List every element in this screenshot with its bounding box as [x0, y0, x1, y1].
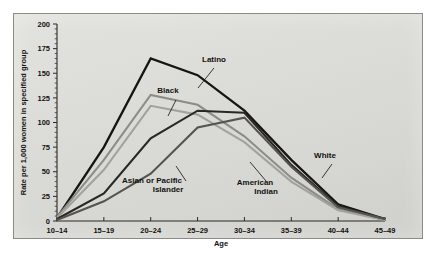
annotation-leader-line[interactable] — [322, 164, 332, 178]
y-tick-label[interactable]: 100 — [37, 118, 50, 127]
line-chart: 025507510012515017520010–1415–1920–2425–… — [0, 0, 434, 263]
series-annotation-american[interactable]: American — [237, 178, 274, 187]
annotation-leader-line[interactable] — [168, 100, 176, 116]
data-lines-layer — [57, 59, 385, 221]
y-tick-label[interactable]: 75 — [42, 143, 50, 152]
y-axis-title[interactable]: Rate per 1,000 women in specified group — [19, 49, 28, 195]
y-tick-label[interactable]: 200 — [37, 20, 50, 29]
data-line-latino[interactable] — [57, 59, 385, 220]
data-line-asian-or-pacific-islander[interactable] — [57, 118, 385, 220]
x-tick-label[interactable]: 25–29 — [187, 226, 208, 235]
y-tick-label[interactable]: 0 — [46, 217, 50, 226]
x-tick-label[interactable]: 45–49 — [375, 226, 396, 235]
chart-figure-root: 025507510012515017520010–1415–1920–2425–… — [0, 0, 434, 263]
series-annotation-indian[interactable]: Indian — [254, 187, 278, 196]
y-tick-label[interactable]: 125 — [37, 94, 50, 103]
series-annotation-asian-or-pacific[interactable]: Asian or Pacific — [122, 176, 183, 185]
y-tick-label[interactable]: 25 — [42, 192, 50, 201]
y-tick-label[interactable]: 175 — [37, 44, 50, 53]
x-tick-label[interactable]: 35–39 — [281, 226, 302, 235]
y-tick-label[interactable]: 50 — [42, 167, 50, 176]
x-tick-label[interactable]: 10–14 — [47, 226, 69, 235]
x-tick-label[interactable]: 20–24 — [140, 226, 162, 235]
series-annotation-islander[interactable]: Islander — [153, 185, 184, 194]
x-tick-label[interactable]: 15–19 — [93, 226, 114, 235]
series-annotation-black[interactable]: Black — [157, 86, 179, 95]
series-annotation-white[interactable]: White — [314, 151, 336, 160]
y-tick-label[interactable]: 150 — [37, 69, 50, 78]
x-tick-label[interactable]: 30–34 — [234, 226, 256, 235]
x-axis-title[interactable]: Age — [214, 239, 228, 248]
series-annotation-latino[interactable]: Latino — [202, 55, 226, 64]
x-tick-label[interactable]: 40–44 — [328, 226, 350, 235]
